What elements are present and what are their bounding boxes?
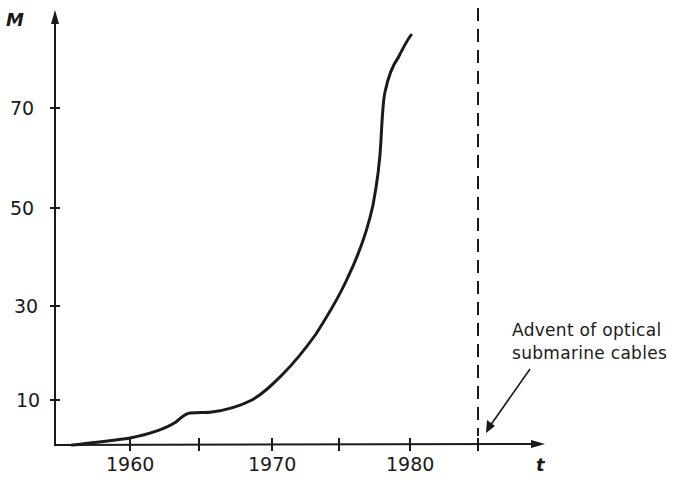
annotation-line-1: Advent of optical [512,320,661,340]
y-axis-label: M [6,9,24,30]
y-tick-10: 10 [16,389,40,411]
chart: M 70 50 30 10 1960 1970 1980 t Advent of… [0,0,679,486]
annotation: Advent of optical submarine cables [486,320,667,433]
x-axis-arrow-icon [531,440,545,448]
x-axis: 1960 1970 1980 t [54,438,546,475]
x-tick-1970: 1970 [248,453,296,475]
y-tick-70: 70 [10,97,34,119]
y-axis: M 70 50 30 10 [6,9,60,446]
growth-curve [72,35,411,445]
x-tick-1980: 1980 [386,453,434,475]
y-tick-30: 30 [14,295,38,317]
annotation-line-2: submarine cables [512,343,667,363]
annotation-arrow-line [490,369,530,426]
y-axis-arrow-icon [51,10,59,24]
x-axis-label: t [536,454,546,475]
y-tick-50: 50 [10,197,34,219]
x-tick-1960: 1960 [106,453,154,475]
